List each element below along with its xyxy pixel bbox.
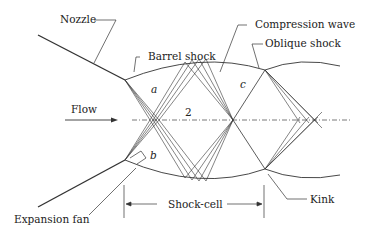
label-region-c: c — [240, 78, 246, 90]
oblique-shock-leader — [252, 44, 263, 68]
boundary-upper-second-cell — [265, 62, 340, 70]
expansion-fan-upper — [125, 80, 206, 181]
label-kink: Kink — [310, 193, 335, 205]
flow-arrow — [65, 118, 118, 123]
label-nozzle: Nozzle — [60, 13, 96, 25]
nozzle-leader — [94, 20, 116, 63]
shock-cell-diagram: Nozzle Barrel shock Compression wave Obl… — [0, 0, 370, 233]
region-b-marker — [130, 151, 146, 164]
label-compression-wave: Compression wave — [255, 18, 355, 30]
second-cell-fan — [265, 70, 322, 169]
barrel-shock-leader — [134, 57, 140, 72]
label-oblique-shock: Oblique shock — [265, 37, 341, 49]
label-region-2: 2 — [185, 106, 192, 118]
label-flow: Flow — [71, 103, 97, 115]
label-expansion-fan: Expansion fan — [14, 213, 90, 225]
label-barrel-shock: Barrel shock — [148, 50, 216, 62]
nozzle-lower-wall — [38, 160, 125, 207]
expansion-fan-lower — [125, 59, 206, 160]
oblique-shocks — [233, 70, 265, 169]
label-shock-cell: Shock-cell — [168, 198, 223, 210]
label-region-a: a — [151, 83, 157, 95]
nozzle-upper-wall — [38, 35, 125, 80]
boundary-lower-second-cell — [265, 169, 340, 178]
label-region-b: b — [150, 149, 157, 161]
